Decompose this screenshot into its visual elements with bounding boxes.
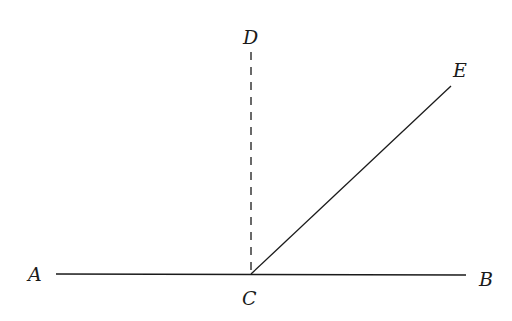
label-e: E: [452, 59, 467, 81]
label-a: A: [26, 263, 42, 285]
line-ab: [56, 274, 466, 275]
geometry-diagram: A B C D E: [0, 0, 512, 321]
label-c: C: [242, 287, 257, 309]
label-b: B: [478, 268, 493, 290]
line-ce: [251, 86, 451, 274]
label-d: D: [242, 26, 258, 48]
